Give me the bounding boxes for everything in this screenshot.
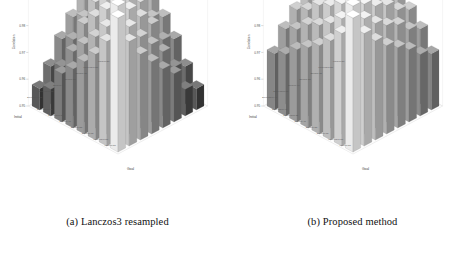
goal-axis-tick-label: 20x1x0.53	[71, 126, 83, 129]
z-axis-title: Correlation	[12, 34, 16, 49]
bar-3d	[345, 10, 360, 152]
goal-axis-tick-label: 40x0.63x0.86	[93, 138, 109, 141]
goal-axis-title: Goal	[127, 167, 134, 171]
goal-axis-tick-label: 20x1x0.40	[294, 120, 306, 123]
chart-b-plot-area: 10.990.980.970.960.95Correlation40x1x0.8…	[235, 0, 470, 216]
z-tick-label: 0.95	[254, 104, 260, 108]
goal-axis-tick-label: 40x1x0.86	[104, 144, 116, 147]
caption-a: (a) Lanczos3 resampled	[0, 216, 235, 227]
initial-axis-tick-label: 20x1x0.40	[53, 84, 65, 87]
chart-a-svg: 10.990.980.970.960.95Correlation40x1x0.8…	[0, 0, 235, 216]
initial-axis-tick-label: 20x0.63x0.75	[38, 90, 54, 93]
z-tick-label: 0.95	[19, 104, 25, 108]
initial-axis-tick-label: 20x0.53x0.40	[27, 96, 43, 99]
initial-axis-tick-label: 40x1x0.86	[98, 60, 110, 63]
goal-axis-tick-label: 40x1x0.86	[339, 144, 351, 147]
goal-axis-tick-label: 20x0.53x0.40	[272, 108, 288, 111]
z-axis-title: Correlation	[247, 34, 251, 49]
z-tick-label: 0.98	[254, 24, 260, 28]
z-tick-label: 0.97	[254, 51, 260, 55]
goal-axis-tick-label: 20x1x0.75	[82, 132, 94, 135]
initial-axis-tick-label: 20x1x0.53	[64, 78, 76, 81]
z-axis: 10.990.980.970.960.95Correlation	[247, 0, 264, 108]
bars-group	[267, 0, 439, 152]
goal-axis-tick-label: 20x1x0.40	[59, 120, 71, 123]
goal-axis-tick-label: 20x1x0.75	[317, 132, 329, 135]
initial-axis-tick-label: 20x0.63x0.75	[273, 90, 289, 93]
z-tick-label: 0.99	[254, 0, 260, 1]
bars-group	[32, 0, 204, 152]
chart-b-svg: 10.990.980.970.960.95Correlation40x1x0.8…	[235, 0, 470, 216]
chart-a-plot-area: 10.990.980.970.960.95Correlation40x1x0.8…	[0, 0, 235, 216]
initial-axis-tick-label: 20x1x0.75	[310, 72, 322, 75]
initial-axis-tick-label: 40x0.63x0.86	[83, 66, 99, 69]
z-tick-label: 0.97	[19, 51, 25, 55]
bar-3d	[110, 10, 125, 152]
goal-axis-tick-label: 20x0.53x0.40	[37, 108, 53, 111]
z-tick-label: 0.98	[19, 24, 25, 28]
goal-axis-tick-label: 20x0.63x0.75	[283, 114, 299, 117]
panel-b: 10.990.980.970.960.95Correlation40x1x0.8…	[235, 0, 470, 257]
initial-axis-tick-label: 40x0.63x0.86	[318, 66, 334, 69]
goal-axis-tick-label: 20x0.63x0.75	[48, 114, 64, 117]
initial-axis-tick-label: 40x1x0.86	[333, 60, 345, 63]
goal-axis-title: Goal	[362, 167, 369, 171]
initial-axis-tick-label: 20x1x0.53	[299, 78, 311, 81]
initial-axis-tick-label: 20x1x0.75	[75, 72, 87, 75]
panel-a: 10.990.980.970.960.95Correlation40x1x0.8…	[0, 0, 235, 257]
goal-axis-tick-label: 40x0.63x0.86	[328, 138, 344, 141]
caption-b: (b) Proposed method	[235, 216, 470, 227]
initial-axis-title: Initial	[249, 115, 257, 119]
figure-two-panel-3d-bar-charts: 10.990.980.970.960.95Correlation40x1x0.8…	[0, 0, 470, 257]
z-tick-label: 0.99	[19, 0, 25, 1]
z-tick-label: 0.96	[254, 77, 260, 81]
z-tick-label: 0.96	[19, 77, 25, 81]
z-axis: 10.990.980.970.960.95Correlation	[12, 0, 29, 108]
initial-axis-tick-label: 20x1x0.40	[288, 84, 300, 87]
initial-axis-tick-label: 20x0.53x0.40	[262, 96, 278, 99]
initial-axis-title: Initial	[14, 115, 22, 119]
goal-axis-tick-label: 20x1x0.53	[306, 126, 318, 129]
